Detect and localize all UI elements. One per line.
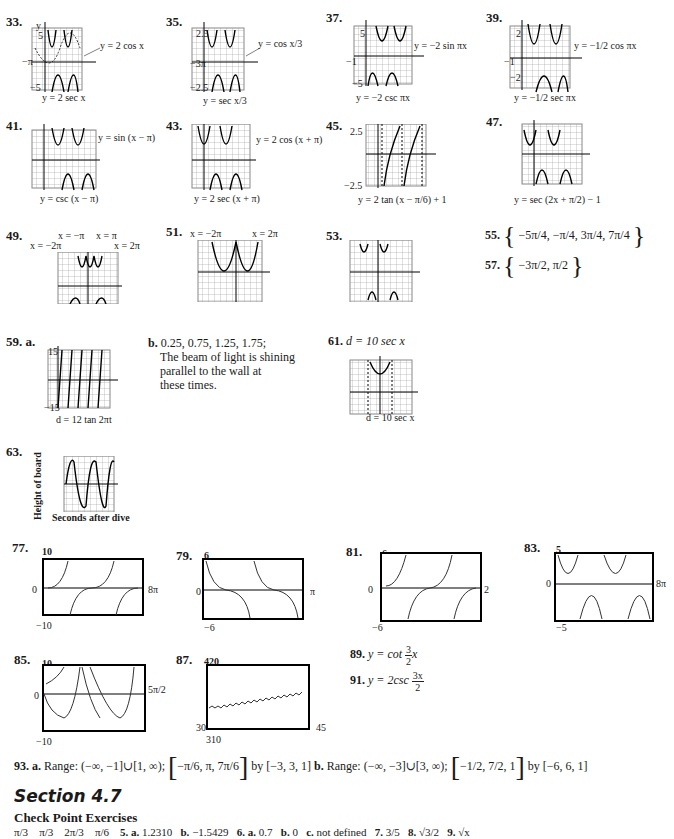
asymptote-label: x = −2π xyxy=(190,228,221,239)
problem-number-59: 59. a. xyxy=(6,334,35,350)
xlabel-33: −π xyxy=(22,56,33,67)
caption-41: y = csc (x − π) xyxy=(40,193,98,204)
answer-93b: b. Range: (−∞, −3]∪[3, ∞); [−1/2, 7/2, 1… xyxy=(314,756,588,778)
ybot-35: −2.5 xyxy=(190,82,208,93)
asymptote-label: x = −2π xyxy=(30,240,61,251)
curve-label-35: y = cos x/3 xyxy=(258,38,302,49)
problem-number-49: 49. xyxy=(6,228,22,244)
answer-59b: b. 0.25, 0.75, 1.25, 1.75; The beam of l… xyxy=(148,336,295,392)
graph-63 xyxy=(60,456,120,512)
graph-87 xyxy=(206,664,310,730)
problem-number-87: 87. xyxy=(176,652,192,668)
xmax-79: π xyxy=(310,586,315,597)
graph-39 xyxy=(508,16,648,96)
graph-37 xyxy=(352,16,492,96)
xmin-87: 30 xyxy=(196,722,206,733)
caption-43: y = 2 sec (x + π) xyxy=(194,193,260,204)
problem-number-77: 77. xyxy=(12,540,28,556)
graph-47 xyxy=(510,120,600,190)
ybot-45: −2.5 xyxy=(344,180,362,191)
asymptote-label: x = 2π xyxy=(252,228,278,239)
xzero-81: 0 xyxy=(368,584,373,595)
ymin-77: −10 xyxy=(36,620,52,631)
answer-89: 89. y = cot 32x xyxy=(350,644,417,667)
ytop-59: 15 xyxy=(48,346,58,357)
problem-number-45: 45. xyxy=(326,118,342,134)
graph-81 xyxy=(380,552,482,622)
x-axis-title-63: Seconds after dive xyxy=(52,512,130,523)
graph-49 xyxy=(56,252,126,304)
ymin-87: 310 xyxy=(206,734,221,745)
answer-91: 91. y = 2csc 3x2 xyxy=(350,670,424,693)
graph-85 xyxy=(42,664,146,732)
ytop-33: 5 xyxy=(38,30,43,41)
xmax-77: 8π xyxy=(148,584,158,595)
ybot-33: −5 xyxy=(30,82,41,93)
y-axis-title-63: Height of board xyxy=(32,452,43,520)
curve-label-43: y = 2 cos (x + π) xyxy=(256,134,322,145)
ymax-77: 10 xyxy=(42,546,52,557)
ybot-37: −5 xyxy=(352,78,363,89)
graph-61 xyxy=(346,356,426,416)
ytop-39: 2 xyxy=(516,28,521,39)
curve-label-33: y = 2 cos x xyxy=(100,40,144,51)
ybot-39: −2 xyxy=(510,72,521,83)
problem-number-35: 35. xyxy=(166,14,182,30)
caption-39: y = −1/2 sec πx xyxy=(514,92,576,103)
xzero-79: 0 xyxy=(196,586,201,597)
caption-35: y = sec x/3 xyxy=(203,95,247,106)
section-subtitle: Check Point Exercises xyxy=(14,810,137,826)
graph-45 xyxy=(356,124,446,194)
caption-45: y = 2 tan (x − π/6) + 1 xyxy=(358,194,447,205)
curve-label-37: y = −2 sin πx xyxy=(414,40,467,51)
graph-33 xyxy=(30,18,170,98)
problem-number-53: 53. xyxy=(326,228,342,244)
graph-53 xyxy=(348,240,428,302)
checkpoint-answers: π/3 π/3 2π/3 π/6 5. a. 1.2310 b. −1.5429… xyxy=(14,826,470,838)
xlabel-37: −1 xyxy=(346,56,357,67)
ytop-35: 2.5 xyxy=(196,28,209,39)
ytop-45: 2.5 xyxy=(350,126,363,137)
ytop-37: 5 xyxy=(360,28,365,39)
problem-number-83: 83. xyxy=(524,540,540,556)
graph-83 xyxy=(554,552,654,622)
answer-55: 55. { −5π/4, −π/4, 3π/4, 7π/4 } xyxy=(485,226,645,246)
xmax-81: 2 xyxy=(484,584,489,595)
problem-number-39: 39. xyxy=(486,10,502,26)
asymptote-label: x = −π xyxy=(58,230,84,241)
curve-label-41: y = sin (x − π) xyxy=(98,132,155,143)
answer-57: 57. { −3π/2, π/2 } xyxy=(485,256,584,276)
ymin-85: −10 xyxy=(36,736,52,747)
problem-number-43: 43. xyxy=(166,118,182,134)
xzero-85: 0 xyxy=(34,690,39,701)
problem-number-37: 37. xyxy=(326,10,342,26)
ybot-59: −15 xyxy=(44,402,60,413)
xmax-85: 5π/2 xyxy=(148,684,166,695)
ymin-81: −6 xyxy=(372,622,383,633)
section-title: Section 4.7 xyxy=(14,786,122,806)
ymin-83: −5 xyxy=(556,622,567,633)
problem-number-63: 63. xyxy=(6,444,22,460)
caption-37: y = −2 csc πx xyxy=(356,92,410,103)
caption-33: y = 2 sec x xyxy=(42,92,85,103)
answer-61: 61. d = 10 sec x xyxy=(328,334,405,349)
caption-59: d = 12 tan 2πt xyxy=(56,414,112,425)
graph-51 xyxy=(196,240,276,302)
problem-number-47: 47. xyxy=(486,114,502,130)
xlabel-35: −3π xyxy=(190,58,206,69)
problem-number-79: 79. xyxy=(176,548,192,564)
xmax-83: 8π xyxy=(656,578,666,589)
asymptote-label: x = 2π xyxy=(114,240,140,251)
problem-number-51: 51. xyxy=(166,224,182,240)
graph-79 xyxy=(202,558,304,620)
problem-number-33: 33. xyxy=(6,14,22,30)
problem-number-41: 41. xyxy=(6,118,22,134)
xmax-87: 45 xyxy=(316,722,326,733)
caption-47: y = sec (2x + π/2) − 1 xyxy=(514,194,601,205)
graph-35 xyxy=(190,18,330,98)
answer-93a: 93. a. Range: (−∞, −1]∪[1, ∞); [−π/6, π,… xyxy=(14,756,311,778)
xzero-83: 0 xyxy=(546,578,551,589)
curve-label-39: y = −1/2 cos πx xyxy=(574,40,636,51)
xlabel-39: −1 xyxy=(504,56,515,67)
ymin-79: −6 xyxy=(204,622,215,633)
